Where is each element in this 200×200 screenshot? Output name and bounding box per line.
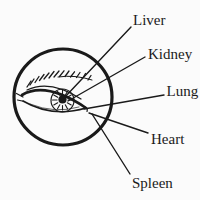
organ-labels: Liver Kidney Lung Heart Spleen xyxy=(132,12,199,191)
spleen-label: Spleen xyxy=(132,175,173,191)
kidney-label: Kidney xyxy=(148,46,193,62)
liver-label: Liver xyxy=(133,12,165,28)
liver-leader-line xyxy=(64,27,131,98)
kidney-leader-line xyxy=(68,57,145,101)
eyebrow-underline xyxy=(58,76,92,80)
heart-label: Heart xyxy=(151,131,185,147)
diagram-svg: Liver Kidney Lung Heart Spleen xyxy=(0,0,200,200)
lung-label: Lung xyxy=(167,83,199,99)
spleen-leader-line xyxy=(92,114,130,174)
eye-organ-diagram: Liver Kidney Lung Heart Spleen xyxy=(0,0,200,200)
lung-leader-line xyxy=(84,95,164,109)
